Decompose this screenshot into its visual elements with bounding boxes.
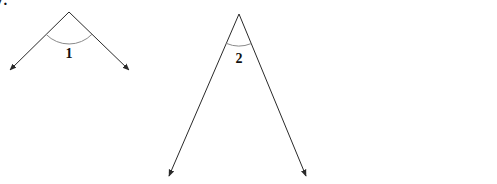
angle-1: 1 [10, 12, 129, 70]
angle-1-left-ray [10, 12, 69, 70]
angle-1-right-ray [69, 12, 129, 70]
angle-2-right-ray [239, 14, 306, 176]
angle-2-label: 2 [236, 51, 243, 66]
angle-2: 2 [169, 14, 306, 176]
problem-number: 7. [0, 0, 7, 9]
angle-1-arc [46, 34, 92, 44]
angles-figure: 1 2 [0, 0, 497, 184]
angle-2-left-ray [169, 14, 239, 176]
diagram-canvas: 7. 1 2 [0, 0, 497, 184]
angle-1-label: 1 [66, 46, 73, 61]
angle-2-arc [226, 43, 251, 46]
